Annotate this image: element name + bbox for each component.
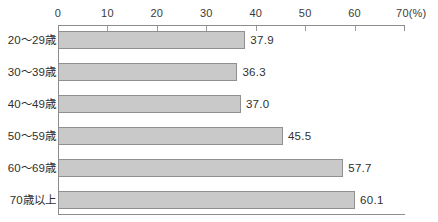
bar [58,127,283,145]
bar-value-label: 37.9 [250,31,274,49]
bar [58,63,237,81]
category-label: 50～59歳 [8,127,56,145]
category-label: 70歳以上 [10,191,56,209]
category-label: 60～69歳 [8,159,56,177]
bar [58,191,355,209]
bar-row: 60～69歳57.7 [0,159,438,177]
bar [58,159,343,177]
x-axis-tick-mark [305,26,306,31]
bar-value-label: 36.3 [242,63,266,81]
bar-value-label: 37.0 [246,95,270,113]
bar [58,31,245,49]
bar-value-label: 60.1 [360,191,384,209]
x-axis-tick-mark [256,26,257,31]
bar-row: 50～59歳45.5 [0,127,438,145]
plot-area: 20～29歳37.930～39歳36.340～49歳37.050～59歳45.5… [0,0,438,222]
bar-chart: 010203040506070(%) 20～29歳37.930～39歳36.34… [0,0,438,222]
category-label: 40～49歳 [8,95,56,113]
bar [58,95,241,113]
x-axis-tick-mark [206,26,207,31]
bar-row: 70歳以上60.1 [0,191,438,209]
bar-value-label: 45.5 [288,127,312,145]
category-label: 30～39歳 [8,63,56,81]
bar-row: 40～49歳37.0 [0,95,438,113]
category-label: 20～29歳 [8,31,56,49]
bar-row: 30～39歳36.3 [0,63,438,81]
x-axis-tick-mark [107,26,108,31]
bar-row: 20～29歳37.9 [0,31,438,49]
bar-value-label: 57.7 [348,159,372,177]
x-axis-tick-mark [157,26,158,31]
x-axis-tick-mark [355,26,356,31]
